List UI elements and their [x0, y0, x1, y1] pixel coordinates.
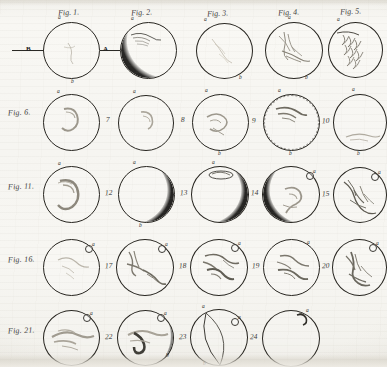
figure-disc-18[interactable]	[190, 239, 248, 296]
figure-disc-1[interactable]	[43, 22, 100, 79]
figure-4-label-b: b	[305, 74, 308, 80]
figure-sketch-20	[333, 240, 387, 296]
figure-number-17: 17	[105, 261, 113, 270]
figure-22-label-b: b	[166, 352, 169, 358]
figure-9-label-a: a	[278, 87, 281, 93]
figure-number-9: 9	[252, 116, 256, 125]
page-top-edge	[0, 0, 387, 6]
figure-disc-8[interactable]	[192, 94, 249, 151]
figure-11-label-a: a	[58, 160, 61, 166]
figure-number-20: 20	[322, 261, 330, 270]
figure-12-label-b: b	[139, 222, 142, 228]
figure-1-label-a: a	[58, 14, 61, 20]
figure-23-label-a2: a	[238, 314, 241, 320]
figure-sketch-11	[44, 167, 100, 223]
row-label-5: Fig. 21.	[8, 325, 35, 335]
figure-10-label-b: b	[357, 150, 360, 156]
figure-4-label-a: a	[288, 14, 291, 20]
figure-23-label-b: b	[203, 360, 206, 366]
figure-9-label-b: b	[289, 150, 292, 156]
figure-sketch-15	[334, 168, 387, 223]
engraved-plate: Fig. 1. Fig. 2. Fig. 3. Fig. 4. Fig. 5. …	[0, 0, 387, 367]
figure-12-label-a: a	[133, 159, 136, 165]
figure-number-12: 12	[105, 188, 113, 197]
figure-sketch-18	[191, 240, 248, 296]
figure-22-label-a: a	[164, 310, 167, 316]
figure-17-label-a: a	[165, 241, 168, 247]
figure-19-label-a: a	[307, 239, 310, 245]
figure-21-label-a: a	[90, 310, 93, 316]
figure-14-label-a: a	[313, 168, 316, 174]
column-header-5: Fig. 5.	[340, 6, 362, 16]
figure-8-label-a: a	[205, 87, 208, 93]
figure-number-22: 22	[105, 332, 113, 341]
figure-disc-13[interactable]	[191, 166, 249, 223]
figure-15-label-a: a	[378, 169, 381, 175]
figure-sketch-6	[44, 95, 100, 151]
figure-16-label-a: a	[92, 241, 95, 247]
figure-disc-2[interactable]	[120, 22, 177, 79]
figure-disc-24[interactable]	[262, 310, 320, 367]
figure-disc-3[interactable]	[196, 23, 253, 79]
figure-18-label-a: a	[238, 240, 241, 246]
figure-number-8: 8	[181, 115, 185, 124]
column-header-1: Fig. 1.	[58, 7, 80, 17]
row-label-2: Fig. 6.	[8, 108, 31, 118]
row-label-4: Fig. 16.	[8, 254, 35, 264]
figure-sketch-2	[121, 23, 177, 79]
figure-disc-12[interactable]	[118, 166, 175, 223]
figure-disc-9[interactable]	[263, 94, 320, 151]
figure-disc-4[interactable]	[265, 22, 323, 79]
figure-number-14: 14	[251, 188, 259, 197]
figure-disc-7[interactable]	[118, 95, 174, 151]
figure-23-label-a: a	[202, 303, 205, 309]
figure-disc-6[interactable]	[43, 94, 100, 151]
figure-3-label-b: b	[239, 74, 242, 80]
figure-sketch-21	[44, 311, 100, 366]
figure-disc-19[interactable]	[263, 239, 320, 296]
figure-sketch-7	[119, 96, 174, 151]
figure-24-label-a: a	[306, 307, 309, 313]
figure-sketch-24	[263, 311, 320, 367]
figure-sketch-13	[192, 167, 249, 223]
figure-8-label-b: b	[218, 150, 221, 156]
figure-sketch-3	[197, 24, 253, 79]
figure-number-15: 15	[322, 189, 330, 198]
figure-sketch-10	[334, 95, 387, 151]
figure-number-23: 23	[179, 332, 187, 341]
figure-sketch-9	[264, 95, 320, 151]
figure-sketch-5	[329, 23, 383, 78]
limb-shadow-12	[119, 167, 174, 222]
figure-20-label-a: a	[376, 240, 379, 246]
figure-number-19: 19	[252, 261, 260, 270]
figure-number-10: 10	[322, 116, 330, 125]
figure-number-24: 24	[250, 332, 258, 341]
column-header-3: Fig. 3.	[207, 8, 229, 18]
figure-10-label-a: a	[352, 86, 355, 92]
figure-13-label-a: a	[212, 159, 215, 165]
figure-1-label-b: b	[71, 78, 74, 84]
figure-number-13: 13	[180, 188, 188, 197]
figure-3-label-a: a	[204, 16, 207, 22]
figure-sketch-8	[193, 95, 249, 151]
column-header-2: Fig. 2.	[131, 7, 153, 17]
figure-disc-21[interactable]	[43, 310, 100, 366]
figure-disc-20[interactable]	[332, 239, 387, 296]
figure-number-18: 18	[179, 261, 187, 270]
figure-2-label-a: a	[131, 15, 134, 21]
row-label-3: Fig. 11.	[8, 181, 34, 191]
figure-disc-11[interactable]	[43, 166, 100, 223]
axis-letter-b: B	[26, 45, 31, 53]
axis-letter-a: A	[103, 45, 108, 53]
figure-disc-5[interactable]	[328, 22, 383, 78]
figure-sketch-19	[264, 240, 320, 296]
figure-disc-10[interactable]	[333, 94, 387, 151]
figure-5-label-a: a	[337, 16, 340, 22]
figure-sketch-4	[266, 23, 323, 79]
figure-number-7: 7	[106, 115, 110, 124]
figure-7-label-a: a	[133, 88, 136, 94]
figure-sketch-1	[44, 23, 100, 79]
figure-6-label-a: a	[57, 88, 60, 94]
